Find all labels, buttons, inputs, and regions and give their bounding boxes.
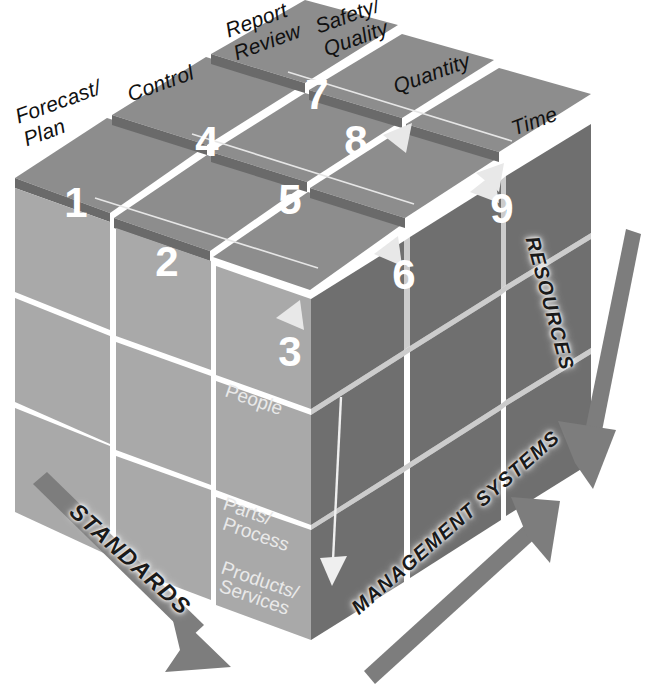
- number-8: 8: [344, 117, 367, 164]
- number-3: 3: [278, 328, 301, 375]
- number-6: 6: [392, 251, 415, 298]
- number-4: 4: [195, 118, 219, 165]
- number-7: 7: [305, 71, 328, 118]
- number-9: 9: [490, 185, 513, 232]
- number-2: 2: [155, 238, 178, 285]
- number-1: 1: [64, 179, 87, 226]
- diagram-canvas: 1 2 3 4 5 6 7 8 9 People Parts/ Process …: [0, 0, 662, 693]
- number-5: 5: [278, 176, 301, 223]
